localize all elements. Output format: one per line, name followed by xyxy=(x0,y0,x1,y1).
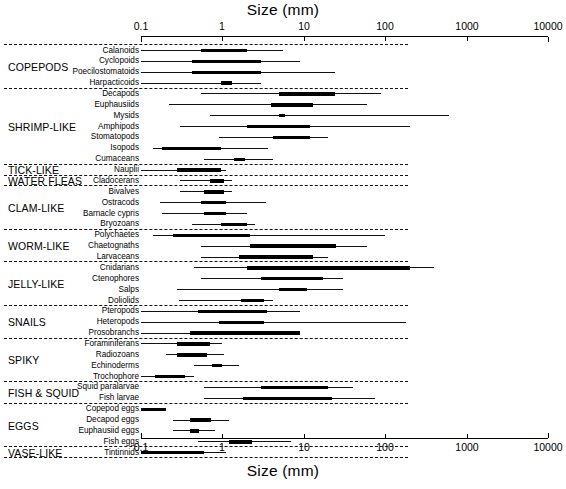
group-separator xyxy=(4,457,408,458)
common-range-bar xyxy=(201,49,247,52)
common-range-bar xyxy=(190,429,199,432)
taxon-label-squid-paralarvae: Squid paralarvae xyxy=(3,382,139,391)
common-range-bar xyxy=(279,288,307,291)
common-range-bar xyxy=(261,386,328,389)
taxon-label-fish-eggs: Fish eggs xyxy=(3,437,139,446)
taxon-label-tintinnids: Tintinnids xyxy=(3,448,139,457)
common-range-bar xyxy=(250,244,336,247)
top-axis-tick xyxy=(304,37,305,41)
top-axis-tick-label: 1 xyxy=(219,20,225,32)
common-range-bar xyxy=(173,234,250,237)
bottom-axis-tick-label: 10000 xyxy=(533,441,562,453)
common-range-bar xyxy=(204,212,225,215)
bottom-axis-line xyxy=(141,438,548,439)
top-axis-tick xyxy=(548,37,549,42)
taxon-label-foraminiferans: Foraminiferans xyxy=(3,339,139,348)
taxon-label-cnidarians: Cnidarians xyxy=(3,263,139,272)
bottom-axis-tick xyxy=(222,434,223,438)
top-axis-tick-label: 0.1 xyxy=(134,20,149,32)
common-range-bar xyxy=(198,310,267,313)
common-range-bar xyxy=(221,81,232,84)
group-separator xyxy=(4,446,408,447)
range-line xyxy=(177,289,342,290)
taxon-label-larvaceans: Larvaceans xyxy=(3,252,139,261)
common-range-bar xyxy=(204,190,224,193)
taxon-label-pteropods: Pteropods xyxy=(3,306,139,315)
taxon-label-echinoderms: Echinoderms xyxy=(3,361,139,370)
taxon-label-ctenophores: Ctenophores xyxy=(3,274,139,283)
taxon-label-nauplii: Nauplii xyxy=(3,165,139,174)
bottom-axis-title: Size (mm) xyxy=(0,462,566,480)
taxon-label-trochophore: Trochophore xyxy=(3,372,139,381)
common-range-bar xyxy=(201,201,226,204)
common-range-bar xyxy=(177,168,220,171)
common-range-bar xyxy=(177,342,209,345)
group-separator xyxy=(4,261,408,262)
bottom-axis-tick xyxy=(141,433,142,438)
top-axis-line xyxy=(141,36,548,37)
taxon-label-euphausiids: Euphausiids xyxy=(3,100,139,109)
taxon-label-radiozoans: Radiozoans xyxy=(3,350,139,359)
common-range-bar xyxy=(234,158,245,161)
taxon-label-cumaceans: Cumaceans xyxy=(3,154,139,163)
taxon-label-polychaetes: Polychaetes xyxy=(3,230,139,239)
bottom-axis-tick-label: 1 xyxy=(219,441,225,453)
taxon-label-fish-larvae: Fish larvae xyxy=(3,393,139,402)
taxon-label-calanoids: Calanoids xyxy=(3,46,139,55)
taxon-label-bivalves: Bivalves xyxy=(3,187,139,196)
taxon-label-stomatopods: Stomatopods xyxy=(3,132,139,141)
top-axis-tick xyxy=(385,37,386,41)
range-line xyxy=(141,83,261,84)
common-range-bar xyxy=(247,125,310,128)
taxon-label-cladocerans: Cladocerans xyxy=(3,176,139,185)
group-separator xyxy=(4,44,408,45)
bottom-axis-tick-label: 10 xyxy=(298,441,310,453)
common-range-bar xyxy=(141,408,166,411)
common-range-bar xyxy=(192,71,262,74)
taxon-label-prosobranchs: Prosobranchs xyxy=(3,328,139,337)
common-range-bar xyxy=(192,60,262,63)
taxon-label-heteropods: Heteropods xyxy=(3,317,139,326)
taxon-label-ostracods: Ostracods xyxy=(3,198,139,207)
taxon-label-poecilostomatoids: Poecilostomatoids xyxy=(3,67,139,76)
common-range-bar xyxy=(210,179,224,182)
common-range-bar xyxy=(219,321,264,324)
bottom-axis-tick xyxy=(304,434,305,438)
common-range-bar xyxy=(279,92,334,95)
common-range-bar xyxy=(261,277,322,280)
top-axis-tick-label: 10000 xyxy=(533,20,562,32)
taxon-label-barnacle-cypris: Barnacle cypris xyxy=(3,209,139,218)
top-axis-tick xyxy=(222,37,223,41)
common-range-bar xyxy=(247,266,410,269)
taxon-label-bryozoans: Bryozoans xyxy=(3,219,139,228)
top-axis-tick-label: 100 xyxy=(376,20,394,32)
taxon-label-doliolids: Doliolids xyxy=(3,296,139,305)
common-range-bar xyxy=(190,331,300,334)
taxon-label-harpacticoids: Harpacticoids xyxy=(3,78,139,87)
common-range-bar xyxy=(221,223,247,226)
bottom-axis-tick-label: 100 xyxy=(376,441,394,453)
common-range-bar xyxy=(241,299,263,302)
top-axis-tick-label: 10 xyxy=(298,20,310,32)
bottom-axis-tick-label: 1000 xyxy=(455,441,478,453)
top-axis-title: Size (mm) xyxy=(0,1,566,19)
top-axis-tick xyxy=(141,37,142,42)
taxon-label-chaetognaths: Chaetognaths xyxy=(3,241,139,250)
taxon-label-copepod-eggs: Copepod eggs xyxy=(3,404,139,413)
taxon-label-decapod-eggs: Decapod eggs xyxy=(3,415,139,424)
bottom-axis-tick xyxy=(467,434,468,438)
common-range-bar xyxy=(279,114,284,117)
taxon-label-amphipods: Amphipods xyxy=(3,122,139,131)
taxon-label-cyclopoids: Cyclopoids xyxy=(3,56,139,65)
taxon-label-euphausiid-eggs: Euphausiid eggs xyxy=(3,426,139,435)
common-range-bar xyxy=(243,397,331,400)
common-range-bar xyxy=(229,440,252,443)
common-range-bar xyxy=(273,136,310,139)
common-range-bar xyxy=(141,451,204,454)
taxon-label-isopods: Isopods xyxy=(3,143,139,152)
bottom-axis-tick xyxy=(548,433,549,438)
range-line xyxy=(210,115,449,116)
common-range-bar xyxy=(177,353,207,356)
bottom-axis-tick xyxy=(385,434,386,438)
range-line xyxy=(141,322,406,323)
